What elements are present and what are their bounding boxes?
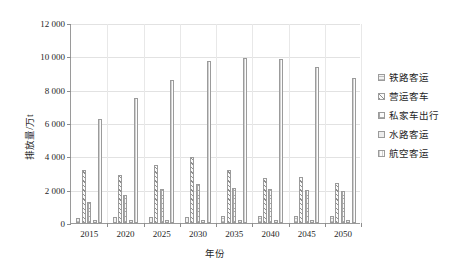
legend-swatch-icon [378,131,385,138]
legend-item[interactable]: 水路客运 [378,125,439,144]
bar-group [221,24,247,223]
x-axis-tick [144,223,145,227]
legend-swatch-icon [378,93,385,100]
legend-label: 私家车出行 [389,111,439,121]
bar [263,178,267,223]
bar [87,202,91,223]
bar [227,170,231,223]
bar-group [258,24,284,223]
y-axis-tick [67,191,71,192]
x-axis-tick [180,223,181,227]
bar [190,157,194,223]
bar [294,216,298,223]
bar [201,220,205,223]
bar [268,189,272,223]
bar [123,195,127,223]
bar [76,218,80,224]
bar [238,220,242,223]
y-axis-label: 6 000 [45,120,65,129]
legend-swatch-icon [378,150,385,157]
legend-item[interactable]: 营运客车 [378,87,439,106]
y-axis-label: 8 000 [45,86,65,95]
bar [221,216,225,223]
gridline-vertical [180,24,181,223]
bar [98,119,102,223]
bar [352,78,356,223]
bar-group [113,24,139,223]
gridline-vertical [289,24,290,223]
x-axis-tick [107,223,108,227]
x-axis-label: 2025 [153,229,171,239]
y-axis-label: 10 000 [40,53,65,62]
y-axis-tick [67,91,71,92]
gridline-vertical [325,24,326,223]
bar [315,67,319,223]
x-axis-label: 2030 [189,229,207,239]
legend-label: 航空客运 [389,149,429,159]
bar [160,189,164,223]
bar [149,217,153,223]
x-axis-tick [252,223,253,227]
bar [335,183,339,223]
x-axis-tick [216,223,217,227]
y-axis-tick [67,157,71,158]
y-axis-tick [67,124,71,125]
bar [232,188,236,224]
bar [299,177,303,223]
x-axis-tick [361,223,362,227]
bar [93,220,97,223]
x-axis-label: 2045 [298,229,316,239]
y-axis-label: 4 000 [45,153,65,162]
y-axis-title: 排放量/万t [22,114,36,159]
x-axis-label: 2050 [334,229,352,239]
legend-swatch-icon [378,112,385,119]
bar [258,216,262,223]
gridline-vertical [252,24,253,223]
chart-legend: 铁路客运营运客车私家车出行水路客运航空客运 [378,68,439,163]
bar-group [294,24,320,223]
legend-item[interactable]: 私家车出行 [378,106,439,125]
bar [129,220,133,223]
gridline-vertical [216,24,217,223]
bar-group [185,24,211,223]
bar-group [149,24,175,223]
bar [274,220,278,223]
bar [165,220,169,223]
legend-item[interactable]: 铁路客运 [378,68,439,87]
x-axis-tick [289,223,290,227]
gridline-vertical [107,24,108,223]
chart-figure: 排放量/万t 02 0004 0006 0008 00010 00012 000… [0,0,463,274]
x-axis-label: 2015 [80,229,98,239]
y-axis-label: 0 [61,220,66,229]
bar [346,220,350,223]
y-axis-tick [67,224,71,225]
bar [305,190,309,223]
legend-label: 铁路客运 [389,73,429,83]
x-axis-label: 2035 [225,229,243,239]
gridline-vertical [361,24,362,223]
y-axis-label: 2 000 [45,186,65,195]
bar-group [76,24,102,223]
bar [113,217,117,223]
bar [341,191,345,223]
y-axis-tick [67,24,71,25]
bar [82,170,86,223]
bar [279,59,283,223]
legend-label: 水路客运 [389,130,429,140]
x-axis-label: 2040 [261,229,279,239]
y-axis-label: 12 000 [40,20,65,29]
bar [330,216,334,223]
y-axis-tick [67,57,71,58]
bar [196,184,200,223]
bar [207,61,211,223]
bar [154,165,158,223]
bar [170,80,174,223]
legend-item[interactable]: 航空客运 [378,144,439,163]
bar [310,220,314,223]
x-axis-label: 2020 [116,229,134,239]
legend-swatch-icon [378,74,385,81]
legend-label: 营运客车 [389,92,429,102]
x-axis-tick [325,223,326,227]
bar [134,98,138,223]
plot-area: 02 0004 0006 0008 00010 00012 000 201520… [70,24,360,224]
